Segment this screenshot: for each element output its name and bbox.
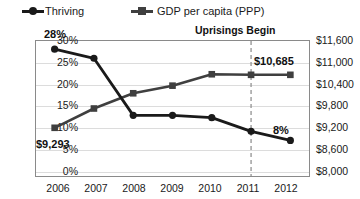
uprisings-marker-label: Uprisings Begin <box>195 25 276 36</box>
gdp-data-point <box>208 71 215 78</box>
thriving-data-point <box>130 112 137 119</box>
gdp-series-line <box>55 74 291 128</box>
gdp-start-value-label: $9,293 <box>36 139 70 150</box>
thriving-data-point <box>169 112 176 119</box>
thriving-start-value-label: 28% <box>44 29 66 40</box>
gdp-series-markers <box>51 71 293 131</box>
thriving-data-point <box>247 128 254 135</box>
gdp-data-point <box>91 105 98 112</box>
gdp-data-point <box>169 82 176 89</box>
gdp-data-point <box>130 90 137 97</box>
gdp-data-point <box>248 72 255 79</box>
thriving-data-point <box>287 137 294 144</box>
gdp-data-point <box>51 124 58 131</box>
thriving-data-point <box>51 46 58 53</box>
thriving-data-point <box>90 55 97 62</box>
chart-container: Thriving GDP per capita (PPP) 30% 25% 20… <box>0 0 360 199</box>
gdp-data-point <box>287 72 294 79</box>
gdp-end-value-label: $10,685 <box>254 56 294 67</box>
thriving-end-value-label: 8% <box>273 125 289 136</box>
thriving-data-point <box>208 114 215 121</box>
